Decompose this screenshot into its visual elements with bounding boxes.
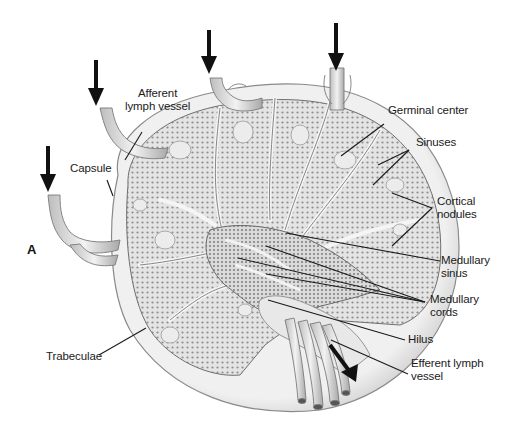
label-germinal-center: Germinal center — [388, 104, 468, 117]
leader-capsule — [107, 180, 113, 196]
afferent-arrow-3 — [201, 30, 217, 74]
label-cortical-nodules: Cortical nodules — [437, 195, 477, 221]
label-line: lymph vessel — [125, 100, 190, 113]
label-hilus: Hilus — [408, 333, 433, 346]
label-medullary-cords: Medullary cords — [430, 293, 479, 319]
label-afferent-lymph-vessel: Afferent lymph vessel — [125, 87, 190, 113]
afferent-arrow-4 — [328, 23, 344, 71]
label-efferent-lymph-vessel: Efferent lymph vessel — [411, 357, 484, 383]
label-line: Cortical — [437, 195, 477, 208]
label-line: cords — [430, 306, 479, 319]
label-medullary-sinus: Medullary sinus — [441, 254, 490, 280]
label-capsule: Capsule — [70, 162, 112, 175]
label-line: Medullary — [430, 293, 479, 306]
label-line: nodules — [437, 208, 477, 221]
label-sinuses: Sinuses — [416, 136, 456, 149]
label-trabeculae: Trabeculae — [46, 350, 102, 363]
label-line: vessel — [411, 370, 484, 383]
label-line: Medullary — [441, 254, 490, 267]
afferent-arrow-2 — [88, 60, 104, 106]
label-line: sinus — [441, 267, 490, 280]
panel-letter: A — [27, 242, 36, 257]
afferent-arrow-1 — [40, 146, 56, 192]
label-line: Efferent lymph — [411, 357, 484, 370]
label-line: Afferent — [125, 87, 190, 100]
